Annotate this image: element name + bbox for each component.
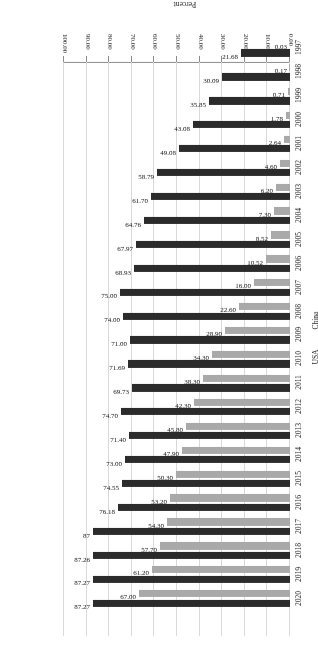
bar-row: 87.2761.20: [64, 562, 290, 586]
bar-value-label: 38.30: [185, 378, 201, 386]
bar-china-2019: [152, 566, 290, 573]
bar-usa-2017: [93, 528, 290, 535]
bar-china-2007: [254, 279, 290, 286]
bar-row: 8754.30: [64, 514, 290, 538]
category-label-2006: 2006: [291, 251, 304, 275]
bar-usa-2015: [122, 480, 290, 487]
bar-china-2013: [187, 423, 291, 430]
bar-china-2006: [266, 255, 290, 262]
bar-row: 71.6934.30: [64, 347, 290, 371]
bar-value-label: 34.30: [194, 354, 210, 362]
bar-china-1999: [288, 88, 290, 95]
bar-value-label: 45.80: [168, 426, 184, 434]
category-axis-years: 1997199819992000200120022003200420052006…: [291, 36, 304, 610]
bar-row: 43.081.78: [64, 108, 290, 132]
category-label-1997: 1997: [291, 36, 304, 60]
bar-china-2010: [212, 351, 290, 358]
bar-row: 64.767.30: [64, 203, 290, 227]
bar-china-2000: [286, 112, 290, 119]
bar-row: 69.7338.30: [64, 371, 290, 395]
category-label-2003: 2003: [291, 180, 304, 204]
plot-area: 1997199819992000200120022003200420052006…: [64, 36, 290, 610]
category-label-2009: 2009: [291, 323, 304, 347]
category-label-2001: 2001: [291, 132, 304, 156]
category-label-2010: 2010: [291, 347, 304, 371]
bar-china-2012: [194, 399, 290, 406]
bar-value-label: 0.71: [273, 91, 285, 99]
bar-value-label: 1.78: [271, 115, 283, 123]
bar-row: 35.850.71: [64, 84, 290, 108]
bar-value-label: 0.17: [274, 67, 286, 75]
bar-china-2001: [284, 136, 290, 143]
bar-china-2004: [274, 207, 290, 214]
bar-china-2016: [170, 494, 290, 501]
category-label-2012: 2012: [291, 395, 304, 419]
bar-china-2020: [139, 590, 290, 597]
bar-value-label: 7.30: [258, 211, 270, 219]
category-label-2000: 2000: [291, 108, 304, 132]
bar-value-label: 61.20: [133, 570, 149, 578]
bar-row: 71.4045.80: [64, 419, 290, 443]
bar-row: 74.5550.30: [64, 467, 290, 491]
bar-value-label: 57.70: [141, 546, 157, 554]
bar-value-label: 6.20: [261, 187, 273, 195]
bar-row: 68.9310.52: [64, 251, 290, 275]
bar-china-2009: [225, 327, 290, 334]
bar-china-2002: [280, 160, 290, 167]
category-label-2002: 2002: [291, 156, 304, 180]
bar-value-label: 87.27: [74, 603, 90, 611]
bar-usa-2018: [93, 552, 290, 559]
bar-row: 73.0047.90: [64, 443, 290, 467]
bar-china-2005: [271, 231, 290, 238]
bar-value-label: 67.00: [120, 593, 136, 601]
bar-value-label: 50.30: [158, 474, 174, 482]
bar-china-2015: [176, 471, 290, 478]
bar-chart-figure: 0.0010.0020.0030.0040.0050.0060.0070.008…: [0, 0, 304, 656]
bar-usa-2007: [121, 289, 291, 296]
bar-row: 87.2657.70: [64, 538, 290, 562]
category-label-2018: 2018: [291, 538, 304, 562]
bar-rows: 21.680.0330.090.1735.850.7143.081.7849.0…: [64, 36, 290, 610]
bar-china-2011: [203, 375, 290, 382]
bar-row: 87.2767.00: [64, 586, 290, 610]
category-label-2007: 2007: [291, 275, 304, 299]
bar-value-label: 0.03: [275, 43, 287, 51]
bar-value-label: 53.20: [151, 498, 167, 506]
bar-value-label: 47.90: [163, 450, 179, 458]
bar-usa-2013: [129, 432, 290, 439]
bar-china-2017: [167, 518, 290, 525]
bar-usa-2012: [121, 408, 290, 415]
bar-value-label: 4.60: [264, 163, 276, 171]
category-label-2020: 2020: [291, 586, 304, 610]
category-label-2019: 2019: [291, 562, 304, 586]
bar-row: 49.082.64: [64, 132, 290, 156]
bar-usa-2006: [134, 265, 290, 272]
bar-usa-2008: [123, 313, 290, 320]
category-label-1998: 1998: [291, 60, 304, 84]
bar-value-label: 16.00: [235, 283, 251, 291]
category-label-2016: 2016: [291, 490, 304, 514]
value-axis-title: Percent: [72, 0, 298, 9]
bar-value-label: 2.64: [269, 139, 281, 147]
bar-value-label: 8.52: [256, 235, 268, 243]
bar-row: 74.0022.60: [64, 299, 290, 323]
bar-china-2014: [182, 447, 290, 454]
category-label-2011: 2011: [291, 371, 304, 395]
bar-row: 71.0028.90: [64, 323, 290, 347]
category-label-2005: 2005: [291, 227, 304, 251]
bar-usa-2016: [118, 504, 290, 511]
bar-row: 67.978.52: [64, 227, 290, 251]
bar-value-label: 22.60: [220, 306, 236, 314]
category-label-2004: 2004: [291, 203, 304, 227]
bar-value-label: 28.90: [206, 330, 222, 338]
bar-row: 21.680.03: [64, 36, 290, 60]
bar-usa-2014: [125, 456, 290, 463]
bar-usa-2011: [132, 384, 290, 391]
bar-china-2008: [239, 303, 290, 310]
bar-china-2003: [276, 184, 290, 191]
category-label-2017: 2017: [291, 514, 304, 538]
category-label-1999: 1999: [291, 84, 304, 108]
bar-row: 30.090.17: [64, 60, 290, 84]
bar-row: 61.706.20: [64, 180, 290, 204]
bar-row: 74.7042.30: [64, 395, 290, 419]
